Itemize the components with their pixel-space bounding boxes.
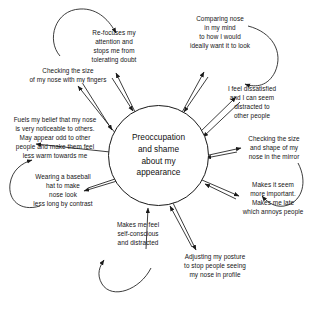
- node-checking-size-with-fingers: Checking the size of my nose with my fin…: [14, 66, 122, 84]
- node-wearing-baseball-hat: Wearing a baseball hat to make nose look…: [18, 172, 108, 208]
- vicious-flower-diagram: Preoccupation and shame about my appeara…: [0, 0, 317, 311]
- node-checking-in-mirror: Checking the size and shape of my nose i…: [234, 134, 314, 161]
- node-adjusting-my-posture: Adjusting my posture to stop people seei…: [164, 252, 266, 279]
- node-comparing-nose-in-mind: Comparing nose in my mind to how I would…: [175, 14, 265, 50]
- node-fuels-my-belief: Fuels my belief that my nose is very not…: [2, 115, 108, 160]
- spoke-mirror-to-hub: [206, 152, 237, 158]
- node-re-focuses-attention: Re-focuses my attention and stops me fro…: [78, 28, 150, 64]
- node-makes-me-feel-self-conscious: Makes me feel self-conscious and distrac…: [101, 220, 175, 247]
- spoke-hub-to-posture: [173, 203, 196, 250]
- node-feel-dissatisfied: I feel dissatisfied and I can seem distr…: [212, 84, 292, 120]
- spoke-comparing-to-hub: [184, 77, 208, 112]
- node-makes-it-seem-more-important: Makes it seem more important. Makes me l…: [231, 180, 315, 216]
- arc-posture-to-self-conscious: [99, 260, 151, 292]
- spoke-hub-to-comparing: [180, 72, 204, 116]
- central-node-preoccupation: Preoccupation and shame about my appeara…: [108, 105, 209, 206]
